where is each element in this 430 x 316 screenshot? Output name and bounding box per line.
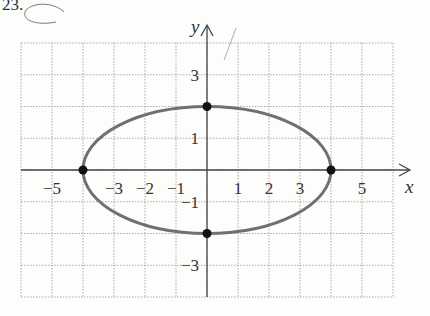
x-tick-label: 3 (296, 179, 305, 198)
problem-number: 23. (2, 0, 23, 14)
vertex-point (79, 166, 88, 175)
x-tick-label: −2 (136, 179, 154, 198)
x-tick-label: 2 (265, 179, 274, 198)
x-tick-label: 1 (234, 179, 243, 198)
vertex-point (203, 102, 212, 111)
problem-number-circle (25, 4, 64, 23)
vertex-point (203, 229, 212, 238)
pencil-mark (224, 28, 236, 60)
y-tick-label: 3 (191, 66, 200, 85)
ellipse-graph: −5−3−2−1123531−1−3xy 23. (0, 0, 430, 316)
y-axis-label: y (189, 16, 200, 37)
x-axis-label: x (404, 176, 414, 197)
y-tick-label: −3 (181, 256, 199, 275)
tick-labels: −5−3−2−1123531−1−3xy (43, 16, 414, 275)
y-tick-label: 1 (191, 129, 200, 148)
x-tick-label: −3 (105, 179, 123, 198)
axes (21, 25, 410, 297)
vertex-point (327, 166, 336, 175)
x-tick-label: 5 (358, 179, 367, 198)
x-tick-label: −5 (43, 179, 61, 198)
y-tick-label: −1 (181, 193, 199, 212)
